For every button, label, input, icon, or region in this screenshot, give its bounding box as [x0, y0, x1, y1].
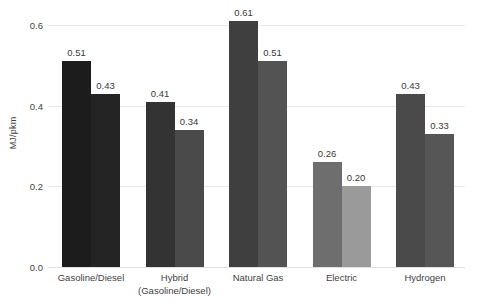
bar-value-label: 0.34: [180, 116, 199, 127]
y-axis-tick-label: 0.4: [4, 100, 48, 111]
x-axis-category-label: Hybrid(Gasoline/Diesel): [138, 272, 211, 297]
y-axis-tick-labels: 0.00.20.40.6: [0, 25, 48, 267]
y-axis-tick-label: 0.0: [4, 262, 48, 273]
bar: [175, 130, 204, 267]
bar-value-label: 0.20: [347, 172, 366, 183]
bar-value-label: 0.33: [430, 120, 449, 131]
bar: [62, 61, 91, 267]
bar-value-label: 0.41: [151, 88, 170, 99]
bar-value-label: 0.43: [96, 80, 115, 91]
bar: [91, 94, 120, 267]
x-axis-category-label: Electric: [326, 272, 357, 285]
category-label-line: Hybrid: [138, 272, 211, 285]
bar: [146, 102, 175, 267]
category-label-line: Hydrogen: [404, 272, 445, 285]
bar: [229, 21, 258, 267]
bar-value-label: 0.43: [401, 80, 420, 91]
x-axis-category-label: Natural Gas: [233, 272, 284, 285]
x-axis-category-label: Gasoline/Diesel: [58, 272, 125, 285]
category-label-line: Electric: [326, 272, 357, 285]
bar-value-label: 0.26: [318, 148, 337, 159]
bar-chart: MJ/pkm 0.00.20.40.6 0.510.430.410.340.61…: [0, 0, 477, 308]
y-axis-tick-label: 0.6: [4, 20, 48, 31]
bar: [396, 94, 425, 267]
y-axis-tick-label: 0.2: [4, 181, 48, 192]
bar-value-label: 0.51: [67, 47, 86, 58]
bar: [313, 162, 342, 267]
category-label-line: Natural Gas: [233, 272, 284, 285]
gridline: [48, 267, 465, 268]
bar: [425, 134, 454, 267]
category-label-line: Gasoline/Diesel: [58, 272, 125, 285]
bar: [342, 186, 371, 267]
category-label-line: (Gasoline/Diesel): [138, 285, 211, 298]
bar-value-label: 0.61: [234, 7, 253, 18]
bar-value-label: 0.51: [263, 47, 282, 58]
bar: [258, 61, 287, 267]
x-axis-category-label: Hydrogen: [404, 272, 445, 285]
plot-area: 0.510.430.410.340.610.510.260.200.430.33: [48, 25, 465, 267]
